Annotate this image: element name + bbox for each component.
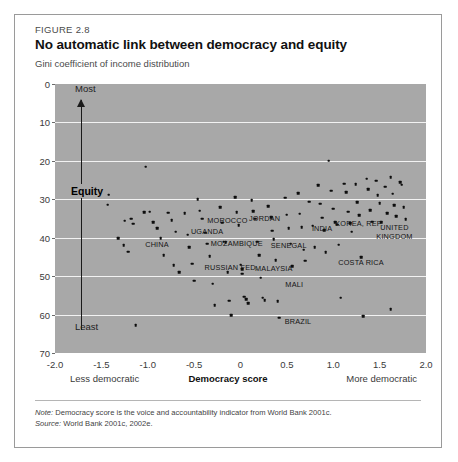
country-label: MOROCCO (207, 215, 247, 224)
data-point (247, 302, 250, 305)
x-tick-label: 2.0 (419, 359, 432, 370)
data-point (145, 165, 148, 168)
gridline (55, 315, 426, 316)
data-point (191, 263, 194, 266)
data-point (319, 203, 322, 206)
country-label: JORDAN (249, 214, 280, 223)
data-point (234, 196, 237, 199)
axis-caption-less-democratic: Less democratic (70, 373, 139, 384)
data-point (130, 218, 133, 221)
x-tick-label: 1.0 (327, 359, 340, 370)
country-label: INDIA (312, 224, 332, 233)
data-point (250, 199, 253, 202)
y-tick-mark (52, 276, 55, 277)
data-point (375, 180, 378, 183)
x-tick-label: -2.0 (47, 359, 63, 370)
data-point (209, 255, 212, 258)
country-label: MALAYSIA (255, 264, 293, 273)
figure-number: FIGURE 2.8 (35, 24, 90, 35)
y-tick-mark (52, 353, 55, 354)
x-tick-label: 1.5 (373, 359, 386, 370)
figure-page: FIGURE 2.8 No automatic link between dem… (0, 0, 458, 462)
country-label: MOZAMBIQUE (211, 238, 263, 247)
y-tick-label: 30 (39, 194, 50, 205)
y-tick-label: 20 (39, 155, 50, 166)
gridline (55, 122, 426, 123)
data-point (267, 205, 270, 208)
data-point (386, 212, 389, 215)
y-tick-mark (52, 122, 55, 123)
data-point (356, 201, 359, 204)
data-point (369, 209, 372, 212)
data-point (172, 264, 175, 267)
data-point (300, 226, 303, 229)
data-point (237, 224, 240, 227)
data-point (174, 230, 177, 233)
x-tick-label: -1.5 (93, 359, 109, 370)
data-point (252, 210, 255, 213)
data-point (404, 218, 407, 221)
y-tick-label: 50 (39, 271, 50, 282)
data-point (235, 211, 238, 214)
gridline (55, 161, 426, 162)
data-point (258, 254, 261, 257)
source-line: Source: World Bank 2001c, 2002e. (35, 418, 153, 429)
data-point (127, 250, 130, 253)
country-label: CHINA (145, 240, 169, 249)
data-point (201, 218, 204, 221)
data-point (122, 244, 125, 247)
data-point (391, 193, 394, 196)
data-point (241, 273, 244, 276)
country-label: MALI (285, 279, 303, 288)
note-text: Democracy score is the voice and account… (55, 408, 331, 417)
country-label: UGANDA (191, 227, 223, 236)
data-point (162, 254, 165, 257)
data-point (308, 200, 311, 203)
country-label: BRAZIL (285, 317, 312, 326)
x-tick-label: 0.5 (280, 359, 293, 370)
axis-caption-more-democratic: More democratic (346, 373, 417, 384)
data-point (332, 207, 335, 210)
y-tick-label: 0 (45, 79, 50, 90)
equity-arrow-icon (81, 100, 83, 330)
data-point (274, 259, 277, 262)
data-point (245, 298, 248, 301)
x-axis-title: Democracy score (188, 373, 267, 384)
data-point (123, 220, 126, 223)
data-point (230, 314, 233, 317)
footer-divider (35, 400, 421, 401)
data-point (271, 230, 274, 233)
data-point (152, 221, 155, 224)
data-point (276, 300, 279, 303)
data-point (347, 210, 350, 213)
country-label: COSTA RICA (338, 258, 384, 267)
y-tick-mark (52, 315, 55, 316)
annotation-most: Most (75, 83, 96, 94)
figure-subtitle: Gini coefficient of income distribution (35, 58, 190, 69)
data-point (325, 251, 328, 254)
y-tick-mark (52, 238, 55, 239)
scatter-plot-area: 010203040506070 -2.0-1.5-1.0-0.500.51.01… (55, 84, 426, 353)
data-point (389, 308, 392, 311)
country-label: SENEGAL (271, 241, 307, 250)
data-point (213, 304, 216, 307)
note-label: Note: (35, 408, 53, 417)
data-point (317, 184, 320, 187)
data-point (143, 211, 146, 214)
country-label: RUSSIAN FED. (204, 262, 258, 271)
data-point (184, 212, 187, 215)
data-point (134, 324, 137, 327)
data-point (117, 237, 120, 240)
source-text: World Bank 2001c, 2002e. (63, 419, 152, 428)
data-point (211, 283, 214, 286)
data-point (297, 192, 300, 195)
annotation-equity: Equity (69, 184, 107, 198)
data-point (354, 183, 357, 186)
data-point (313, 246, 316, 249)
data-point (287, 227, 290, 230)
source-label: Source: (35, 419, 61, 428)
data-point (339, 296, 342, 299)
data-point (156, 227, 159, 230)
data-point (321, 216, 324, 219)
data-point (284, 196, 287, 199)
